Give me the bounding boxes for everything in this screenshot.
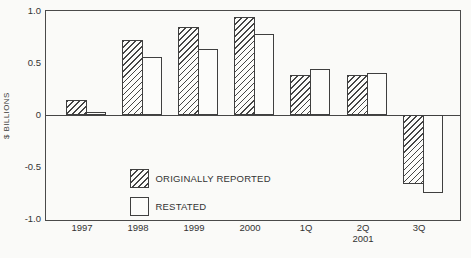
plot-area: ORIGINALLY REPORTED RESTATED (45, 10, 461, 221)
legend: ORIGINALLY REPORTED RESTATED (130, 169, 271, 225)
y-tick-label--0.5: -0.5 (0, 161, 41, 173)
legend-label-restated: RESTATED (156, 201, 207, 212)
y-tick-label-0: 0 (0, 109, 41, 121)
bar-1997-restated (86, 112, 106, 115)
y-tick-label--1.0: -1.0 (0, 213, 41, 225)
zero-baseline (46, 115, 460, 116)
legend-label-originally-reported: ORIGINALLY REPORTED (156, 173, 271, 184)
bar-chart: $ BILLIONS ORIGINALLY REPORTED RESTATED … (0, 0, 471, 258)
bar-2q-originally-reported (347, 75, 368, 115)
x-tick-label-1999: 1999 (169, 222, 219, 233)
bar-1997-originally-reported (66, 100, 87, 115)
bar-3q-originally-reported (403, 115, 424, 184)
bar-1q-originally-reported (290, 75, 311, 115)
x-tick-label-1998: 1998 (113, 222, 163, 233)
x-tick-label-3q: 3Q (394, 222, 444, 233)
bar-1999-restated (198, 49, 218, 115)
legend-item-restated: RESTATED (130, 197, 271, 216)
bar-3q-restated (423, 115, 443, 193)
bar-1998-restated (142, 57, 162, 115)
bar-2000-restated (254, 34, 274, 115)
plain-swatch-icon (130, 197, 149, 216)
x-tick-label-1q: 1Q (281, 222, 331, 233)
bar-2000-originally-reported (234, 17, 255, 115)
legend-item-originally-reported: ORIGINALLY REPORTED (130, 169, 271, 188)
x-tick-label-1997: 1997 (57, 222, 107, 233)
y-tick-label-0.5: 0.5 (0, 57, 41, 69)
bar-1q-restated (310, 69, 330, 115)
x-tick-label-2000: 2000 (225, 222, 275, 233)
bar-1999-originally-reported (178, 27, 199, 115)
x-sublabel-2001: 2001 (338, 233, 388, 244)
x-tick-label-2q: 2Q (338, 222, 388, 233)
bar-2q-restated (367, 73, 387, 115)
y-tick-label-1.0: 1.0 (0, 5, 41, 17)
bar-1998-originally-reported (122, 40, 143, 115)
hatched-swatch-icon (130, 169, 149, 188)
